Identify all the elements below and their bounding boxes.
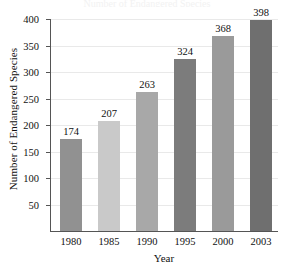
bar: 263 [136, 92, 158, 231]
bar: 324 [174, 59, 196, 231]
y-tick-mark: 300 [46, 72, 50, 73]
y-tick-label: 250 [23, 93, 39, 104]
bar-value-label: 207 [101, 108, 117, 119]
plot-area: 50100150200250300350400 1742072633243683… [50, 19, 278, 232]
bar-value-label: 174 [63, 126, 79, 137]
gridline [51, 72, 278, 73]
y-tick-label: 100 [23, 173, 39, 184]
gridline [51, 99, 278, 100]
x-tick-label: 2003 [251, 236, 272, 247]
bar: 174 [60, 139, 82, 231]
x-tick-label: 1995 [175, 236, 196, 247]
bar: 207 [98, 121, 120, 231]
cropped-chart-title: Number of Endangered Species [0, 0, 294, 7]
bar: 398 [250, 20, 272, 231]
y-tick-mark: 50 [46, 205, 50, 206]
y-tick-label: 200 [23, 120, 39, 131]
gridline [51, 205, 278, 206]
x-tick-label: 1985 [99, 236, 120, 247]
y-tick-label: 50 [29, 199, 40, 210]
y-tick-label: 150 [23, 146, 39, 157]
x-tick-label: 1980 [61, 236, 82, 247]
x-axis-line [50, 231, 278, 232]
y-tick-mark: 400 [46, 19, 50, 20]
y-tick-label: 350 [23, 40, 39, 51]
bar-value-label: 368 [215, 23, 231, 34]
y-tick-mark: 150 [46, 152, 50, 153]
gridline [51, 178, 278, 179]
y-tick-mark: 250 [46, 99, 50, 100]
bar: 368 [212, 36, 234, 231]
y-tick-label: 400 [23, 14, 39, 25]
bar-value-label: 324 [177, 46, 193, 57]
gridline [51, 125, 278, 126]
gridline [51, 46, 278, 47]
gridline [51, 19, 278, 20]
y-tick-mark: 100 [46, 178, 50, 179]
gridline [51, 152, 278, 153]
y-tick-label: 300 [23, 67, 39, 78]
bar-value-label: 398 [253, 7, 269, 18]
y-tick-mark: 200 [46, 125, 50, 126]
x-axis-title: Year [50, 252, 278, 264]
bar-value-label: 263 [139, 79, 155, 90]
x-tick-label: 2000 [213, 236, 234, 247]
y-tick-mark: 350 [46, 46, 50, 47]
bar-chart: Number of Endangered Species Number of E… [0, 0, 294, 273]
y-axis-title: Number of Endangered Species [7, 19, 19, 219]
x-tick-label: 1990 [137, 236, 158, 247]
